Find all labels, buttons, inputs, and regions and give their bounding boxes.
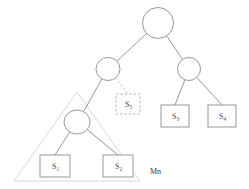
edge-lower-left-to-s1	[55, 132, 70, 155]
leaf-label-sub-s1: 1	[56, 166, 59, 172]
edge-right-internal-to-s3	[175, 80, 185, 105]
edge-left-internal-to-s5-dashed	[115, 78, 128, 94]
edge-lower-left-to-s2	[87, 130, 118, 155]
leaf-label-sub-s5: 5	[129, 104, 132, 110]
leaf-nodes-group: S1S2S3S4S5	[40, 94, 236, 177]
edge-right-internal-to-s4	[197, 77, 222, 105]
tree-diagram: S1S2S3S4S5 Mn	[0, 0, 249, 189]
root-node[interactable]	[143, 8, 174, 39]
edge-left-internal-to-lower-left	[84, 79, 102, 112]
figure-canvas: S1S2S3S4S5 Mn	[0, 0, 249, 189]
leaf-label-sub-s3: 3	[176, 116, 179, 122]
left-internal-node[interactable]	[96, 58, 120, 81]
region-label-mn: Mn	[150, 167, 161, 176]
leaf-label-sub-s2: 2	[119, 166, 122, 172]
lower-left-internal-node[interactable]	[64, 110, 90, 134]
edge-root-to-left-internal	[117, 33, 147, 61]
leaf-label-sub-s4: 4	[223, 116, 226, 122]
right-internal-node[interactable]	[178, 58, 201, 81]
edge-root-to-right-internal	[167, 36, 183, 60]
